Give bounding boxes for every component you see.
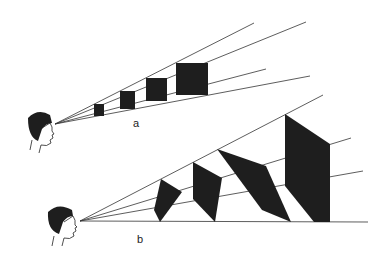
head-icon-b	[48, 206, 77, 246]
panel-a-squares	[94, 63, 208, 116]
panel-a-label: a	[133, 117, 140, 129]
perspective-diagram: a b	[0, 0, 389, 263]
head-icon-a	[28, 112, 54, 153]
panel-b-label: b	[137, 233, 143, 245]
panel-b-shapes	[154, 114, 330, 222]
